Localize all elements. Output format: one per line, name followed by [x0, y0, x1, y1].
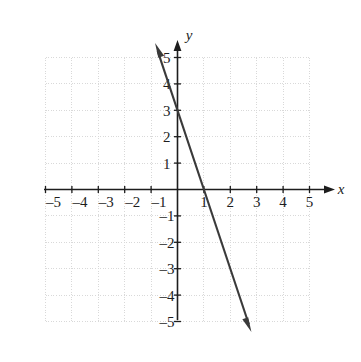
y-tick-label: –3 — [159, 261, 175, 277]
x-tick-label: –4 — [71, 194, 88, 210]
y-tick-label: 1 — [163, 156, 171, 172]
x-tick-label: 3 — [253, 194, 261, 210]
x-tick-label: 5 — [306, 194, 314, 210]
x-tick-label: –5 — [45, 194, 61, 210]
x-tick-label: –3 — [98, 194, 114, 210]
y-tick-label: 2 — [163, 129, 171, 145]
y-tick-label: –2 — [159, 235, 175, 251]
y-axis-label: y — [184, 27, 193, 43]
x-tick-label: –2 — [124, 194, 140, 210]
x-axis-label: x — [337, 181, 345, 197]
coordinate-plane-figure: –5–4–3–2–112345 54321–1–2–3–4–5 x y — [0, 0, 361, 362]
figure-background — [0, 0, 361, 362]
y-tick-label: –4 — [159, 288, 176, 304]
y-tick-label: –1 — [159, 208, 175, 224]
y-tick-label: 3 — [163, 103, 171, 119]
x-tick-label: –1 — [151, 194, 167, 210]
y-tick-label: 5 — [163, 50, 171, 66]
y-tick-label: –5 — [159, 314, 175, 330]
x-tick-label: 4 — [279, 194, 287, 210]
x-tick-label: 2 — [227, 194, 235, 210]
coordinate-graph: –5–4–3–2–112345 54321–1–2–3–4–5 x y — [0, 0, 361, 362]
